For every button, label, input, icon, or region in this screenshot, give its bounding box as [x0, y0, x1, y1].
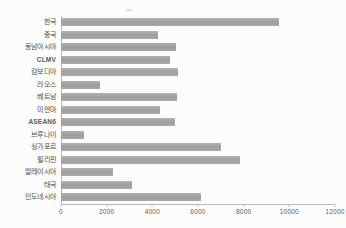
bar	[61, 93, 177, 101]
bar-row: 라오스	[0, 79, 346, 92]
category-label: 캄보디아	[0, 68, 61, 76]
x-axis-tick	[335, 205, 336, 207]
bar-track	[61, 91, 334, 104]
x-axis-tick	[289, 205, 290, 207]
category-label: 말레이시아	[0, 168, 61, 176]
category-label: ASEAN6	[0, 118, 61, 126]
category-label: 중국	[0, 31, 61, 39]
bar-row: 말레이시아	[0, 166, 346, 179]
bar	[61, 131, 84, 139]
bar-row: ASEAN6	[0, 116, 346, 129]
bar-row: 한국	[0, 16, 346, 29]
x-axis-tick-label: 6000	[190, 208, 205, 215]
bar	[61, 106, 160, 114]
x-axis-tick-label: 12000	[325, 208, 344, 215]
bar-track	[61, 16, 334, 29]
category-label: 라오스	[0, 81, 61, 89]
category-label: 태국	[0, 181, 61, 189]
bar-track	[61, 54, 334, 67]
bar-track	[61, 129, 334, 142]
x-axis-tick	[106, 205, 107, 207]
bar-track	[61, 141, 334, 154]
bar-rows: 한국중국동남아시아CLMV캄보디아라오스베트남미얀마ASEAN6브루나이싱가포르…	[0, 16, 346, 204]
bar-track	[61, 66, 334, 79]
bar	[61, 193, 201, 201]
bar-row: 필리핀	[0, 154, 346, 167]
bar-row: 미얀마	[0, 104, 346, 117]
bar-track	[61, 79, 334, 92]
x-axis-tick	[152, 205, 153, 207]
bar	[61, 181, 132, 189]
bar	[61, 43, 176, 51]
x-axis-tick	[198, 205, 199, 207]
bar-track	[61, 29, 334, 42]
bar	[61, 56, 170, 64]
bar-row: 캄보디아	[0, 66, 346, 79]
bar-track	[61, 116, 334, 129]
bar	[61, 118, 175, 126]
category-label: 브루나이	[0, 131, 61, 139]
bar-row: 브루나이	[0, 129, 346, 142]
bar-track	[61, 104, 334, 117]
x-axis-tick-label: 0	[59, 208, 63, 215]
x-axis-tick-label: 10000	[280, 208, 299, 215]
plot-area: 한국중국동남아시아CLMV캄보디아라오스베트남미얀마ASEAN6브루나이싱가포르…	[0, 16, 346, 204]
category-label: 싱가포르	[0, 143, 61, 151]
bar-row: 중국	[0, 29, 346, 42]
x-axis-tick	[243, 205, 244, 207]
bar-row: 태국	[0, 179, 346, 192]
category-label: 베트남	[0, 93, 61, 101]
bar-row: 인도네시아	[0, 191, 346, 204]
bar	[61, 143, 221, 151]
bar-row: 베트남	[0, 91, 346, 104]
bar-track	[61, 154, 334, 167]
bar-row: 싱가포르	[0, 141, 346, 154]
bar	[61, 81, 100, 89]
bar-track	[61, 179, 334, 192]
bar	[61, 156, 240, 164]
category-label: 미얀마	[0, 106, 61, 114]
bar	[61, 168, 113, 176]
scan-artifact	[126, 9, 133, 11]
x-axis-tick	[61, 205, 62, 207]
bar	[61, 18, 279, 26]
x-axis-tick-label: 8000	[236, 208, 251, 215]
bar	[61, 68, 178, 76]
bar-track	[61, 191, 334, 204]
bar	[61, 31, 158, 39]
category-label: CLMV	[0, 56, 61, 64]
x-axis-tick-label: 2000	[99, 208, 114, 215]
category-label: 한국	[0, 18, 61, 26]
bar-row: CLMV	[0, 54, 346, 67]
category-label: 필리핀	[0, 156, 61, 164]
bar-chart-figure: 한국중국동남아시아CLMV캄보디아라오스베트남미얀마ASEAN6브루나이싱가포르…	[0, 0, 346, 228]
bar-track	[61, 166, 334, 179]
bar-row: 동남아시아	[0, 41, 346, 54]
x-axis-tick-label: 4000	[145, 208, 160, 215]
bar-track	[61, 41, 334, 54]
category-label: 동남아시아	[0, 43, 61, 51]
category-label: 인도네시아	[0, 193, 61, 201]
x-axis: 020004000600080001000012000	[61, 204, 335, 225]
